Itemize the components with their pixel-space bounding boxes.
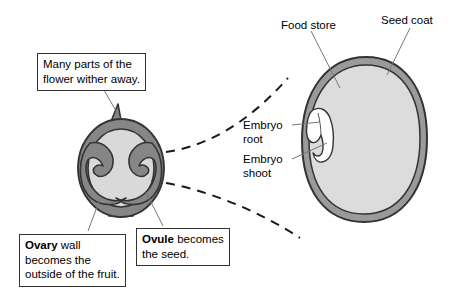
callout-ovule-line1: Ovule becomes	[142, 232, 224, 247]
label-embryo-root-line2: root	[243, 132, 283, 146]
callout-ovary-lead: Ovary	[25, 239, 58, 251]
label-embryo-shoot: Embryo shoot	[243, 152, 283, 180]
callout-flower-withers: Many parts of the flower wither away.	[37, 53, 146, 91]
callout-wither-line1: Many parts of the	[43, 57, 140, 72]
callout-ovule-lead: Ovule	[142, 233, 174, 245]
callout-ovary-line2: becomes the	[25, 253, 120, 268]
callout-ovary-wall: Ovary wall becomes the outside of the fr…	[19, 234, 126, 287]
callout-ovary-rest: wall	[58, 239, 81, 251]
callout-ovule: Ovule becomes the seed.	[136, 228, 230, 266]
label-embryo-root: Embryo root	[243, 118, 283, 146]
label-embryo-shoot-line1: Embryo	[243, 152, 283, 166]
label-embryo-shoot-line2: shoot	[243, 166, 283, 180]
diagram-canvas: Many parts of the flower wither away. Ov…	[0, 0, 461, 296]
label-food-store: Food store	[281, 18, 336, 32]
callout-ovary-line3: outside of the fruit.	[25, 267, 120, 282]
callout-ovule-rest: becomes	[174, 233, 224, 245]
label-embryo-root-line1: Embryo	[243, 118, 283, 132]
callout-wither-line2: flower wither away.	[43, 72, 140, 87]
label-seed-coat: Seed coat	[381, 13, 433, 27]
callout-ovary-line1: Ovary wall	[25, 238, 120, 253]
callout-ovule-line2: the seed.	[142, 247, 224, 262]
